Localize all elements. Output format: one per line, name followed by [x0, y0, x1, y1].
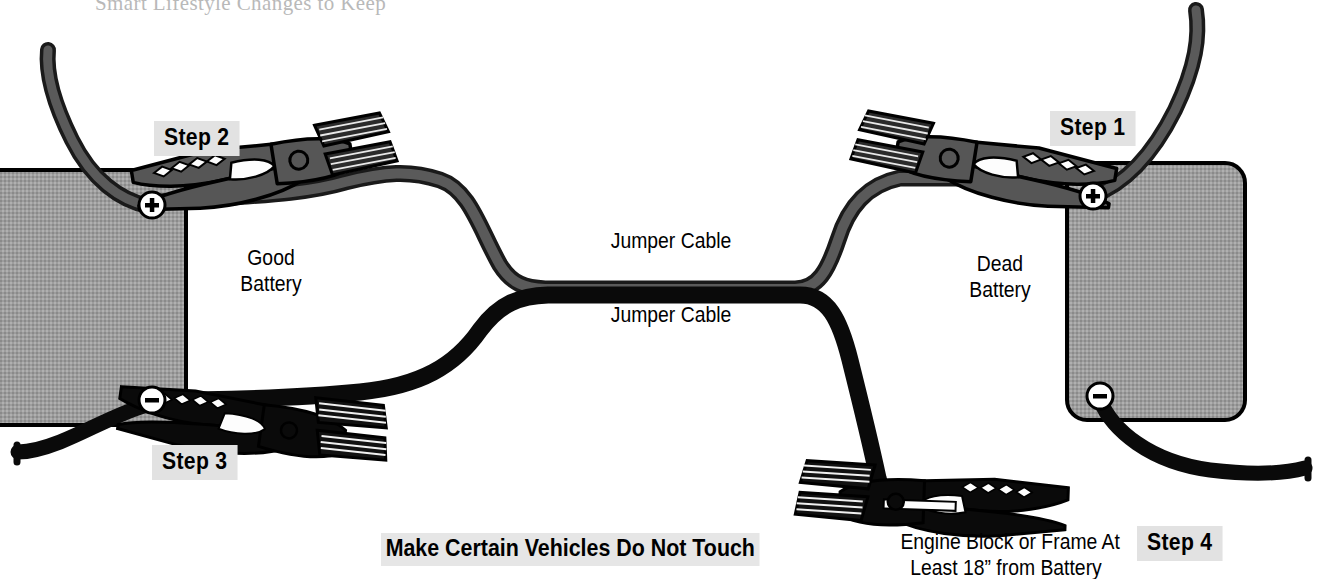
- engine-block-caption-line2: Least 18” from Battery: [900, 556, 1111, 579]
- dead-battery-negative-terminal: [1087, 383, 1113, 409]
- dead-battery-label-line2: Battery: [952, 278, 1049, 301]
- jumper-cable-label-upper: Jumper Cable: [570, 229, 772, 252]
- diagram-canvas: [0, 0, 1325, 579]
- good-battery-label-line1: Good: [223, 246, 320, 269]
- step-2-badge[interactable]: Step 2: [154, 121, 239, 156]
- clamp-step-3-boot: [308, 396, 393, 464]
- jumper-cable-label-lower: Jumper Cable: [570, 303, 772, 326]
- dead-battery-positive-terminal: [1080, 183, 1106, 209]
- engine-block-caption-line1: Engine Block or Frame At: [900, 530, 1111, 553]
- warning-caption: Make Certain Vehicles Do Not Touch: [381, 533, 760, 566]
- jumper-cable-diagram: Smart Lifestyle Changes to Keep: [0, 0, 1325, 579]
- good-battery-positive-terminal: [139, 192, 165, 218]
- step-4-badge[interactable]: Step 4: [1137, 526, 1222, 561]
- clamp-step-4: [795, 460, 1069, 539]
- good-battery-negative-terminal: [139, 387, 165, 413]
- jumper-cable-negative-black: [150, 295, 915, 505]
- step-1-badge[interactable]: Step 1: [1050, 111, 1135, 146]
- step-3-badge[interactable]: Step 3: [152, 445, 237, 480]
- dead-battery-label-line1: Dead: [952, 252, 1049, 275]
- good-battery-label-line2: Battery: [223, 272, 320, 295]
